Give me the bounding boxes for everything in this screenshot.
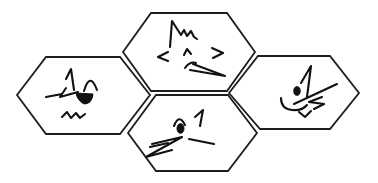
honeycomb-figure bbox=[0, 0, 378, 183]
right-hexagon-cell bbox=[229, 56, 359, 129]
doodle-dot bbox=[177, 124, 184, 134]
bottom-hexagon bbox=[128, 95, 257, 171]
bottom-hexagon-cell bbox=[128, 95, 257, 171]
doodle-dot bbox=[294, 87, 300, 96]
left-hexagon-cell bbox=[17, 57, 150, 134]
top-hexagon-cell bbox=[123, 13, 255, 91]
honeycomb-svg bbox=[0, 0, 378, 183]
